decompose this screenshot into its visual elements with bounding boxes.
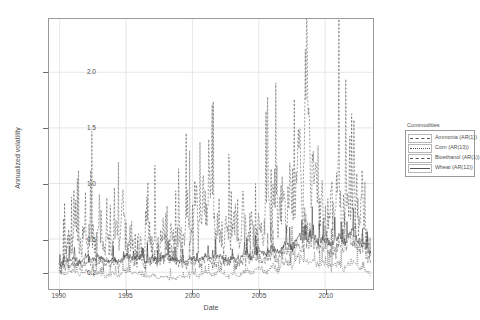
x-axis-label: Date	[48, 304, 374, 311]
x-tick-mark	[192, 290, 193, 295]
legend-item-label: Corn (AR(13))	[435, 145, 469, 150]
y-tick-label: 0.2	[56, 270, 96, 277]
legend-line-swatch	[408, 134, 432, 143]
y-tick-mark	[43, 240, 48, 241]
x-tick-mark	[259, 290, 260, 295]
legend-item-label: Bioethanol (AR(1))	[435, 155, 480, 160]
legend-item: Wheat (AR(12))	[408, 163, 472, 173]
x-tick-mark	[326, 290, 327, 295]
y-tick-label: 0.5	[56, 237, 96, 244]
y-tick-mark	[43, 184, 48, 185]
legend-item-label: Wheat (AR(12))	[435, 165, 473, 170]
legend-line-swatch	[408, 154, 432, 163]
legend: Ammonia (AR(1))Corn (AR(13))Bioethanol (…	[405, 130, 475, 177]
legend-item: Corn (AR(13))	[408, 143, 472, 153]
y-tick-label: 1.0	[56, 181, 96, 188]
legend-title: Commodities	[406, 122, 441, 128]
y-tick-label: 1.5	[56, 125, 96, 132]
data-layer	[49, 19, 373, 289]
legend-item: Ammonia (AR(1))	[408, 133, 472, 143]
y-axis-label: Annualized volatility	[14, 98, 21, 218]
y-tick-label: 2.0	[56, 69, 96, 76]
legend-item: Bioethanol (AR(1))	[408, 153, 472, 163]
y-tick-mark	[43, 128, 48, 129]
legend-line-swatch	[408, 144, 432, 153]
y-tick-mark	[43, 273, 48, 274]
legend-item-label: Ammonia (AR(1))	[435, 135, 477, 140]
legend-line-swatch	[408, 164, 432, 173]
x-tick-mark	[126, 290, 127, 295]
x-tick-mark	[59, 290, 60, 295]
y-tick-mark	[43, 72, 48, 73]
plot-panel	[48, 18, 374, 290]
